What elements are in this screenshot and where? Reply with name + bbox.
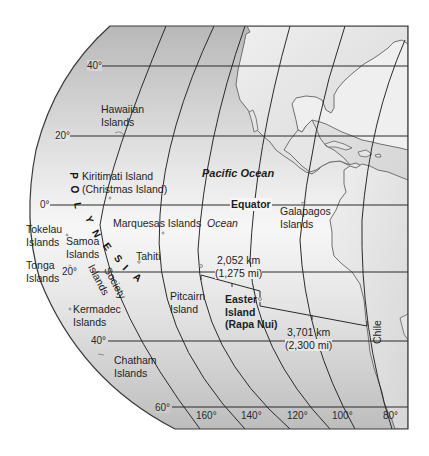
lon-label-160w: 160° bbox=[196, 410, 217, 421]
kermadec-islands-label: Kermadec Islands bbox=[73, 303, 121, 328]
lat-label-60s: 60° bbox=[155, 402, 170, 413]
lon-label-140w: 140° bbox=[241, 410, 262, 421]
pacific-map: 40° 20° 0° 20° 40° 60° 160° 140° 120° 10… bbox=[0, 0, 429, 456]
tokelau-islands-label: Tokelau Islands bbox=[26, 223, 62, 248]
chile-label: Chile bbox=[371, 320, 384, 344]
tonga-islands-label: Tonga Islands bbox=[26, 259, 59, 284]
lat-label-20n: 20° bbox=[55, 130, 70, 141]
kiritimati-island-label: Kiritimati Island (Christmas Island) bbox=[82, 170, 167, 195]
lon-label-120w: 120° bbox=[287, 410, 308, 421]
equator-label: Equator bbox=[230, 198, 272, 211]
lat-label-40s: 40° bbox=[91, 335, 106, 346]
tahiti-label: Tahiti bbox=[136, 250, 161, 263]
distance-easter-chile: 3,701 km (2,300 mi) bbox=[285, 326, 332, 351]
puerto-rico bbox=[375, 154, 381, 157]
marquesas-islands-label: Marquesas Islands bbox=[113, 217, 201, 230]
lat-label-20s: 20° bbox=[62, 266, 77, 277]
chatham-islands-label: Chatham Islands bbox=[114, 354, 157, 379]
hawaiian-islands-label: Hawaiian Islands bbox=[101, 103, 144, 128]
polynesia-letter-o: O bbox=[69, 186, 80, 194]
pitcairn-island-label: Pitcairn Island bbox=[170, 290, 205, 315]
ocean-label: Ocean bbox=[207, 217, 238, 230]
distance-pitcairn-easter: 2,052 km (1,275 mi) bbox=[215, 254, 262, 279]
lat-label-40n: 40° bbox=[87, 60, 102, 71]
lon-label-100w: 100° bbox=[332, 410, 353, 421]
lon-label-80w: 80° bbox=[383, 410, 398, 421]
galapagos-islands-label: Galapagos Islands bbox=[280, 205, 331, 230]
lat-label-0: 0° bbox=[40, 199, 50, 210]
pacific-ocean-label: Pacific Ocean bbox=[202, 167, 274, 180]
easter-island-label: Easter Island (Rapa Nui) bbox=[225, 293, 278, 331]
polynesia-letter-p: P bbox=[68, 172, 79, 179]
